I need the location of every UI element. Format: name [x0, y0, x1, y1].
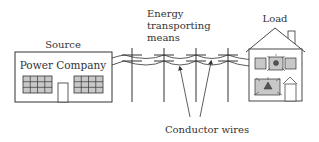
energy-transporting-label: Energy transporting means: [147, 8, 211, 43]
roof: [246, 28, 305, 52]
right-window-grid: [74, 76, 103, 93]
svg-text:means: means: [147, 32, 180, 43]
power-company-building: Power Company: [15, 52, 112, 102]
conductor-wires-label: Conductor wires: [165, 124, 249, 135]
door: [58, 83, 68, 102]
power-distribution-diagram: Source Power Company Energy transporting: [0, 0, 319, 142]
source-label: Source: [45, 39, 81, 50]
load-label: Load: [262, 13, 288, 24]
house-door: [285, 84, 296, 101]
utility-poles: [122, 48, 238, 102]
svg-text:Energy: Energy: [147, 8, 184, 19]
house: [246, 28, 305, 101]
conductor-wires: [112, 55, 265, 66]
left-window-grid: [23, 76, 52, 93]
svg-text:transporting: transporting: [147, 20, 211, 31]
power-company-label: Power Company: [20, 59, 107, 71]
